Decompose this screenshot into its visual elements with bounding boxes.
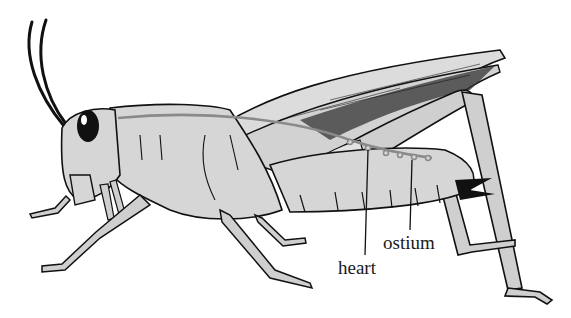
abdomen — [270, 148, 474, 212]
heart-label: heart — [338, 258, 376, 277]
compound-eye — [77, 110, 99, 142]
head — [62, 109, 120, 205]
grasshopper-illustration — [0, 0, 571, 318]
antennae — [29, 20, 66, 126]
ostium-label: ostium — [383, 233, 435, 252]
grasshopper-diagram: heart ostium — [0, 0, 571, 318]
